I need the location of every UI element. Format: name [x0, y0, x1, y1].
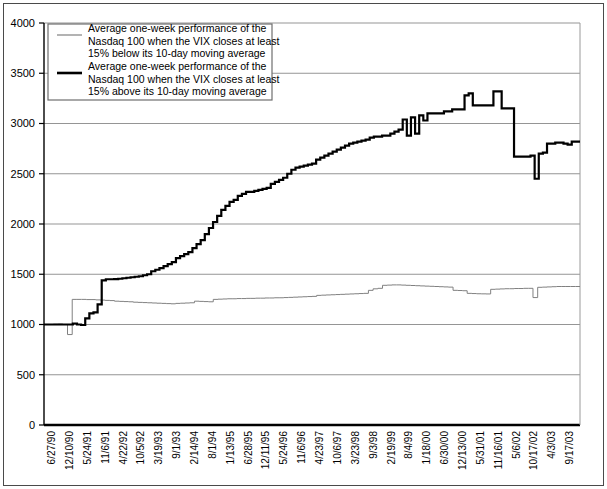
x-axis-tick-label: 11/16/01: [493, 431, 504, 470]
x-axis-tick-label: 1/18/00: [421, 431, 432, 465]
legend-entry-text: 15% below its 10-day moving average: [88, 47, 266, 59]
x-axis-tick-label: 5/6/02: [511, 431, 522, 459]
y-axis-tick-label: 3500: [11, 67, 35, 79]
y-axis-tick-label: 1000: [11, 318, 35, 330]
y-axis-tick-label: 2500: [11, 168, 35, 180]
chart-plot-svg: 05001000150020002500300035004000 6/27/90…: [0, 0, 607, 489]
x-axis-tick-label: 5/24/91: [82, 431, 93, 465]
x-axis-tick-label: 12/10/90: [64, 431, 75, 470]
x-axis-tick-label: 9/17/03: [564, 431, 575, 465]
x-axis-tick-labels: 6/27/9012/10/905/24/9111/6/914/22/9210/5…: [46, 431, 575, 470]
x-axis-tick-label: 4/3/03: [546, 431, 557, 459]
x-axis-tick-label: 8/4/99: [403, 431, 414, 459]
x-axis-tick-label: 6/28/95: [243, 431, 254, 465]
y-axis-tick-label: 4000: [11, 17, 35, 29]
x-axis-tick-label: 3/19/93: [153, 431, 164, 465]
x-axis-tick-label: 6/27/90: [46, 431, 57, 465]
x-axis-tick-label: 5/31/01: [475, 431, 486, 465]
x-axis-tick-label: 10/5/92: [135, 431, 146, 465]
y-axis-tick-labels: 05001000150020002500300035004000: [11, 17, 35, 431]
x-axis-tick-label: 9/1/93: [171, 431, 182, 459]
legend-entry-text: Nasdaq 100 when the VIX closes at least: [88, 35, 280, 47]
legend-entry-text: Average one-week performance of the: [88, 22, 267, 34]
legend-entry-text: Nasdaq 100 when the VIX closes at least: [88, 73, 280, 85]
x-axis-tick-label: 4/22/92: [118, 431, 129, 465]
legend-entry-text: Average one-week performance of the: [88, 60, 267, 72]
legend-entry-text: 15% above its 10-day moving average: [88, 85, 267, 97]
series-line-below: [44, 285, 580, 335]
x-axis-tick-label: 2/14/94: [189, 431, 200, 465]
y-axis-tick-label: 500: [17, 369, 35, 381]
x-axis-tick-label: 1/13/95: [225, 431, 236, 465]
y-axis-tick-label: 3000: [11, 117, 35, 129]
y-axis-tick-label: 2000: [11, 218, 35, 230]
x-axis-tick-label: 3/23/98: [350, 431, 361, 465]
y-axis-tick-label: 0: [29, 419, 35, 431]
x-axis-tick-label: 10/6/97: [332, 431, 343, 465]
legend-text-group: Average one-week performance of theNasda…: [88, 22, 280, 97]
x-axis-tick-label: 4/23/97: [314, 431, 325, 465]
x-axis-tick-label: 10/17/02: [528, 431, 539, 470]
x-axis-tick-label: 11/6/91: [100, 431, 111, 464]
x-axis-tick-label: 11/6/96: [296, 431, 307, 464]
y-axis-tick-label: 1500: [11, 268, 35, 280]
chart-container: 05001000150020002500300035004000 6/27/90…: [0, 0, 607, 489]
x-axis-tick-label: 6/30/00: [439, 431, 450, 465]
y-axis-ticks: [39, 23, 44, 425]
x-axis-tick-label: 12/13/00: [457, 431, 468, 470]
x-axis-tick-label: 5/24/96: [278, 431, 289, 465]
x-axis-tick-label: 8/1/94: [207, 431, 218, 459]
x-axis-tick-label: 2/19/99: [386, 431, 397, 465]
series-line-above: [44, 91, 580, 325]
x-axis-tick-label: 12/11/95: [260, 431, 271, 470]
x-axis-tick-label: 9/3/98: [368, 431, 379, 459]
legend: Average one-week performance of theNasda…: [48, 22, 280, 100]
series-group: [44, 91, 580, 334]
